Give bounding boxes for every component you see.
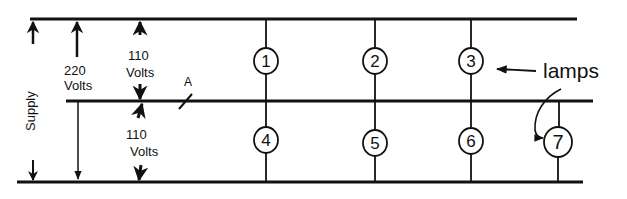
- svg-text:3: 3: [466, 52, 475, 71]
- svg-text:4: 4: [261, 131, 270, 150]
- svg-text:5: 5: [370, 134, 379, 153]
- circuit-diagram: Supply 220 Volts 110 Volts 110 Volts A 1…: [0, 0, 627, 199]
- v110-top-unit: Volts: [126, 65, 155, 80]
- lamp-4: 4: [254, 127, 278, 153]
- lamp-5: 5: [363, 130, 387, 156]
- lamp-1: 1: [254, 48, 278, 74]
- svg-text:7: 7: [552, 131, 563, 153]
- v220-unit: Volts: [64, 78, 93, 93]
- v110-bot-down-arrow: [139, 165, 141, 180]
- v110-bot-up-arrow: [138, 104, 142, 118]
- svg-text:6: 6: [466, 132, 475, 151]
- lamp-6: 6: [459, 128, 483, 154]
- supply-label: Supply: [23, 91, 38, 131]
- v110-bot-unit: Volts: [130, 144, 159, 159]
- lamp-2: 2: [363, 48, 387, 74]
- lamps-pointer-arrow: [497, 69, 536, 71]
- point-a-label: A: [184, 75, 192, 89]
- v220-number: 220: [64, 63, 86, 78]
- lamps-label: lamps: [543, 59, 599, 82]
- v110-bot-number: 110: [126, 127, 147, 142]
- svg-text:2: 2: [370, 52, 379, 71]
- lamp-3: 3: [459, 48, 483, 74]
- svg-text:1: 1: [261, 52, 270, 71]
- v110-top-number: 110: [128, 48, 149, 63]
- lamp-7: 7: [544, 127, 572, 157]
